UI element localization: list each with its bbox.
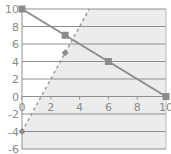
y-tick-label: -2 <box>8 108 19 121</box>
square-marker <box>62 32 69 39</box>
x-tick-label: 10 <box>159 101 171 114</box>
x-tick-label: 0 <box>19 101 26 114</box>
x-tick-label: 4 <box>76 101 83 114</box>
line-chart: 02468101086420-2-4-6 <box>0 0 171 154</box>
x-tick-label: 8 <box>134 101 141 114</box>
x-tick-label: 6 <box>105 101 112 114</box>
y-tick-label: -6 <box>8 143 19 154</box>
y-tick-label: 4 <box>12 56 19 69</box>
square-marker <box>105 58 112 65</box>
plot-area: 02468101086420-2-4-6 <box>5 3 171 154</box>
y-tick-label: 6 <box>12 38 19 51</box>
square-marker <box>19 6 26 13</box>
y-tick-label: 8 <box>12 21 19 34</box>
square-marker <box>163 93 170 100</box>
x-tick-label: 2 <box>47 101 54 114</box>
y-tick-label: -4 <box>8 126 19 139</box>
y-tick-label: 2 <box>12 73 19 86</box>
y-tick-label: 10 <box>5 3 19 16</box>
y-tick-label: 0 <box>12 91 19 104</box>
